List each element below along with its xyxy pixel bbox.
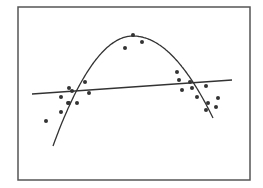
plot-frame <box>18 7 250 180</box>
data-point <box>140 40 144 44</box>
scatter-chart <box>0 0 263 188</box>
data-point <box>75 101 79 105</box>
data-point <box>87 91 91 95</box>
data-point <box>131 33 135 37</box>
data-point <box>123 46 127 50</box>
data-points <box>44 33 220 123</box>
data-point <box>195 95 199 99</box>
fit-lines <box>32 36 232 146</box>
data-point <box>67 101 71 105</box>
data-point <box>70 89 74 93</box>
data-point <box>67 86 71 90</box>
data-point <box>59 110 63 114</box>
data-point <box>177 78 181 82</box>
data-point <box>175 70 179 74</box>
data-point <box>204 84 208 88</box>
linear-fit-line <box>32 80 232 94</box>
data-point <box>190 86 194 90</box>
data-point <box>214 105 218 109</box>
data-point <box>180 88 184 92</box>
data-point <box>204 108 208 112</box>
data-point <box>216 96 220 100</box>
data-point <box>83 80 87 84</box>
data-point <box>59 95 63 99</box>
data-point <box>188 80 192 84</box>
data-point <box>44 119 48 123</box>
data-point <box>206 101 210 105</box>
